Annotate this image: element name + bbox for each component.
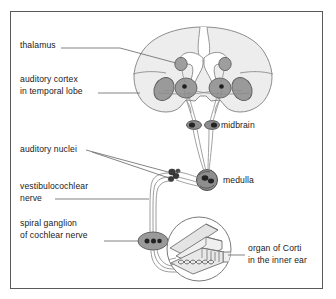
midbrain-nucleus-right bbox=[205, 121, 220, 130]
label-auditory-cortex-line2: in temporal lobe bbox=[20, 86, 83, 98]
label-organ-of-corti-line1: organ of Corti bbox=[248, 243, 307, 255]
auditory-nuclei-cluster bbox=[168, 169, 180, 182]
label-auditory-cortex: auditory cortex in temporal lobe bbox=[20, 74, 83, 97]
label-spiral-ganglion-line1: spiral ganglion bbox=[20, 218, 88, 230]
label-organ-of-corti-line2: in the inner ear bbox=[248, 255, 307, 267]
midbrain-nucleus-left bbox=[187, 121, 202, 130]
label-medulla-line1: medulla bbox=[223, 175, 254, 187]
label-midbrain: midbrain bbox=[221, 120, 255, 132]
label-organ-of-corti: organ of Corti in the inner ear bbox=[248, 243, 307, 266]
label-medulla: medulla bbox=[223, 175, 254, 187]
label-vestibulocochlear-nerve-line2: nerve bbox=[20, 193, 88, 205]
auditory-pathway-figure: thalamus auditory cortex in temporal lob… bbox=[0, 0, 336, 299]
ascending-tracts-lower bbox=[193, 129, 213, 171]
cochlear-nuclei-to-medulla-fibers bbox=[176, 172, 199, 186]
thalamus-nucleus-left bbox=[175, 57, 187, 70]
organ-of-corti-detail bbox=[157, 217, 240, 281]
label-vestibulocochlear-nerve-line1: vestibulocochlear bbox=[20, 181, 88, 193]
auditory-cortex-left bbox=[175, 78, 197, 98]
label-thalamus: thalamus bbox=[20, 40, 56, 52]
label-spiral-ganglion: spiral ganglion of cochlear nerve bbox=[20, 218, 88, 241]
label-vestibulocochlear-nerve: vestibulocochlear nerve bbox=[20, 181, 88, 204]
label-auditory-cortex-line1: auditory cortex bbox=[20, 74, 83, 86]
leader-auditory-nuclei-b bbox=[92, 152, 169, 178]
label-thalamus-line1: thalamus bbox=[20, 40, 56, 52]
cerebrum-section bbox=[133, 27, 273, 113]
label-auditory-nuclei-line1: auditory nuclei bbox=[20, 144, 77, 156]
spiral-ganglion-body bbox=[138, 232, 168, 250]
label-midbrain-line1: midbrain bbox=[221, 120, 255, 132]
thalamus-nucleus-right bbox=[219, 57, 231, 70]
label-spiral-ganglion-line2: of cochlear nerve bbox=[20, 230, 88, 242]
label-auditory-nuclei: auditory nuclei bbox=[20, 144, 77, 156]
leader-auditory-nuclei-a bbox=[86, 150, 168, 172]
medulla-nucleus bbox=[197, 170, 218, 191]
auditory-cortex-right bbox=[209, 78, 231, 98]
